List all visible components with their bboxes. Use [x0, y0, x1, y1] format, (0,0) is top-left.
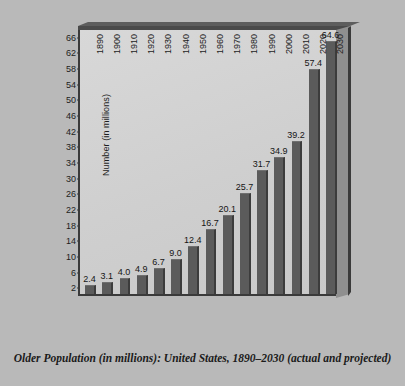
bar-value-label: 6.7: [152, 257, 165, 267]
x-axis-tick-label: 1920: [146, 34, 156, 54]
y-axis-tick-label: 50: [66, 95, 76, 105]
bar-value-label: 34.9: [270, 146, 288, 156]
figure: 26101418222630343842465054586266 2.43.14…: [0, 0, 405, 386]
y-axis-tick-mark: [77, 241, 80, 242]
bar: 2.4: [85, 285, 96, 294]
y-axis-tick-label: 66: [66, 33, 76, 43]
x-axis-tick-label: 2000: [284, 34, 294, 54]
bar-value-label: 4.9: [135, 264, 148, 274]
bar-value-label: 9.0: [169, 248, 182, 258]
bar-value-label: 4.0: [118, 267, 131, 277]
plot-interior: 26101418222630343842465054586266 2.43.14…: [78, 30, 336, 296]
y-axis-tick-mark: [77, 225, 80, 226]
bar-value-label: 2.4: [83, 274, 96, 284]
y-axis-tick-mark: [77, 131, 80, 132]
bar: 31.7: [257, 170, 268, 294]
y-axis-tick-mark: [77, 37, 80, 38]
bar: 4.0: [120, 278, 131, 294]
y-axis-tick-mark: [77, 69, 80, 70]
x-axis-tick-label: 1970: [232, 34, 242, 54]
y-axis-title: Number (in millions): [101, 70, 111, 200]
bar-value-label: 3.1: [101, 271, 114, 281]
bar: 34.9: [274, 157, 285, 294]
y-axis-tick-mark: [77, 116, 80, 117]
bar: 3.1: [102, 282, 113, 294]
y-axis-tick-mark: [77, 272, 80, 273]
x-axis-tick-label: 1960: [215, 34, 225, 54]
y-axis-tick-mark: [77, 163, 80, 164]
y-axis-tick-label: 22: [66, 205, 76, 215]
y-axis-tick-mark: [77, 209, 80, 210]
bar: 39.2: [292, 141, 303, 294]
y-axis-tick-mark: [77, 178, 80, 179]
x-axis-tick-label: 1940: [181, 34, 191, 54]
y-axis-tick-label: 42: [66, 127, 76, 137]
x-axis-tick-label: 1890: [95, 34, 105, 54]
bar: 25.7: [240, 193, 251, 294]
bar: 6.7: [154, 268, 165, 294]
bar: 9.0: [171, 259, 182, 294]
y-axis-tick-label: 2: [71, 283, 76, 293]
y-axis-tick-label: 18: [66, 221, 76, 231]
y-axis-tick-mark: [77, 53, 80, 54]
x-axis-tick-label: 1990: [267, 34, 277, 54]
y-axis-tick-label: 26: [66, 189, 76, 199]
x-axis-tick-label: 1900: [112, 34, 122, 54]
bar-value-label: 39.2: [287, 130, 305, 140]
y-axis-tick-mark: [77, 288, 80, 289]
bar: 4.9: [137, 275, 148, 294]
y-axis-tick-label: 62: [66, 48, 76, 58]
bar-value-label: 31.7: [253, 159, 271, 169]
y-axis-tick-label: 58: [66, 64, 76, 74]
x-axis-tick-label: 2020: [318, 34, 328, 54]
bar: 12.4: [188, 246, 199, 295]
x-axis-tick-label: 2030: [335, 34, 345, 54]
y-axis-tick-label: 46: [66, 111, 76, 121]
y-axis-tick-mark: [77, 84, 80, 85]
bar-value-label: 16.7: [201, 218, 219, 228]
y-axis-tick-mark: [77, 194, 80, 195]
bar: 64.6: [326, 41, 337, 294]
bar-value-label: 20.1: [218, 204, 236, 214]
bar: 20.1: [223, 215, 234, 294]
x-axis-tick-label: 1930: [163, 34, 173, 54]
y-axis-tick-label: 30: [66, 174, 76, 184]
y-axis-tick-label: 34: [66, 158, 76, 168]
y-axis-tick-label: 38: [66, 142, 76, 152]
y-axis-tick-label: 14: [66, 236, 76, 246]
y-axis-tick-mark: [77, 256, 80, 257]
bar: 16.7: [206, 229, 217, 294]
bar-value-label: 57.4: [304, 58, 322, 68]
y-axis-tick-label: 54: [66, 80, 76, 90]
frame-right-edge: [348, 24, 351, 296]
y-axis-tick-label: 10: [66, 252, 76, 262]
bar-value-label: 12.4: [184, 235, 202, 245]
x-axis-tick-label: 1950: [198, 34, 208, 54]
y-axis-tick-mark: [77, 147, 80, 148]
x-axis-tick-label: 1980: [249, 34, 259, 54]
x-axis-tick-label: 1910: [129, 34, 139, 54]
y-axis-tick-mark: [77, 100, 80, 101]
bar: 57.4: [309, 69, 320, 294]
bar-value-label: 25.7: [236, 182, 254, 192]
y-axis-tick-label: 6: [71, 268, 76, 278]
chart-plot-area: 26101418222630343842465054586266 2.43.14…: [78, 22, 360, 304]
chart-caption: Older Population (in millions): United S…: [0, 352, 405, 364]
x-axis-tick-label: 2010: [301, 34, 311, 54]
